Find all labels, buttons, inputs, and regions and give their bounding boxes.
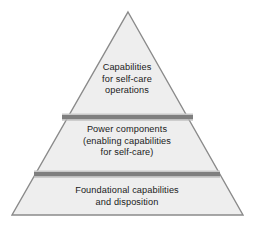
divider-upper bbox=[62, 114, 193, 121]
pyramid-diagram: Capabilities for self-care operations Po… bbox=[0, 0, 254, 228]
pyramid-shape-svg bbox=[0, 0, 254, 228]
divider-lower bbox=[34, 171, 220, 178]
